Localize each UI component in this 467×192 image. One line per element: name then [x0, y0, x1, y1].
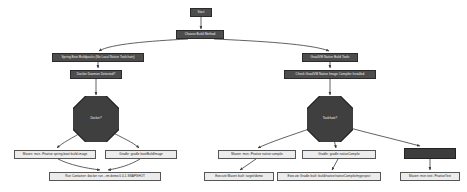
- node-label: Maven: mvn -Pnative spring-boot:build-im…: [23, 153, 87, 156]
- node-label: Gradle: gradle nativeCompile: [318, 153, 359, 156]
- node-label: Execute Gradle built: build/native/nativ…: [288, 175, 371, 178]
- node-start[interactable]: Start: [190, 8, 212, 17]
- node-label: Start: [198, 11, 205, 14]
- node-label: Maven: mvn -Pnative native:compile: [231, 153, 282, 156]
- node-label: Check GraalVM Native Image Compiler Inst…: [296, 73, 365, 76]
- node-run-container[interactable]: Run Container: docker run --rm demo:0.0.…: [49, 172, 161, 181]
- node-label: Maven: mvn test -PnativeTest: [409, 175, 451, 178]
- node-label: Gradle: gradle bootBuildImage: [119, 153, 162, 156]
- node-execute-maven-binary[interactable]: Execute Maven built: target/demo: [204, 172, 274, 181]
- edge-group: [57, 17, 430, 170]
- node-install-graalvm[interactable]: [404, 148, 456, 159]
- node-check-graalvm-compiler[interactable]: Check GraalVM Native Image Compiler Inst…: [284, 70, 376, 79]
- node-label: Toolchain?: [323, 117, 337, 120]
- node-choose-build-method[interactable]: Choose Build Method: [176, 30, 224, 39]
- node-label: Docker?: [90, 117, 101, 120]
- node-maven-native-test[interactable]: Maven: mvn test -PnativeTest: [400, 172, 460, 181]
- node-spring-boot-buildpacks[interactable]: Spring Boot Buildpacks (No Local Native …: [52, 53, 144, 62]
- node-maven-native-compile[interactable]: Maven: mvn -Pnative native:compile: [218, 150, 296, 159]
- edge-layer: [0, 0, 467, 192]
- node-label: GraalVM Native Build Tools: [311, 56, 350, 59]
- node-label: Docker Daemon Detected?: [77, 73, 115, 76]
- node-label: Choose Build Method: [185, 33, 216, 36]
- node-graalvm-native-build-tools[interactable]: GraalVM Native Build Tools: [302, 53, 358, 62]
- node-decision-docker[interactable]: Docker?: [73, 96, 119, 142]
- node-execute-gradle-binary[interactable]: Execute Gradle built: build/native/nativ…: [277, 172, 381, 181]
- node-label: Execute Maven built: target/demo: [215, 175, 263, 178]
- node-gradle-native-compile[interactable]: Gradle: gradle nativeCompile: [302, 150, 376, 159]
- flowchart-canvas: Start Choose Build Method Spring Boot Bu…: [0, 0, 467, 192]
- node-decision-toolchain[interactable]: Toolchain?: [307, 96, 353, 142]
- node-maven-build-image[interactable]: Maven: mvn -Pnative spring-boot:build-im…: [14, 150, 96, 159]
- node-gradle-boot-build-image[interactable]: Gradle: gradle bootBuildImage: [105, 150, 177, 159]
- node-label: Run Container: docker run --rm demo:0.0.…: [65, 175, 145, 178]
- node-docker-daemon-detected[interactable]: Docker Daemon Detected?: [70, 70, 122, 79]
- node-label: Spring Boot Buildpacks (No Local Native …: [61, 56, 134, 59]
